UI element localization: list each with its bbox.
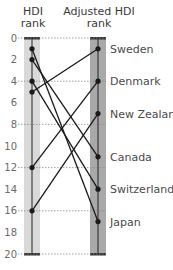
country-label: Japan [109, 216, 141, 229]
country-label: Canada [110, 151, 152, 164]
country-label: New Zealand [110, 108, 173, 121]
country-labels: SwedenDenmarkNew ZealandCanadaSwitzerlan… [109, 43, 173, 229]
y-tick-label: 20 [4, 249, 17, 260]
hdi-rank-point [29, 89, 34, 94]
country-label: Sweden [110, 43, 153, 56]
series-japan [29, 46, 100, 224]
country-label: Denmark [110, 75, 161, 88]
country-label: Switzerland [110, 183, 173, 196]
y-tick-label: 4 [11, 76, 17, 87]
y-tick-label: 2 [11, 54, 17, 65]
y-tick-label: 8 [11, 119, 17, 130]
adjusted-rank-point [95, 79, 100, 84]
adjusted-rank-point [95, 46, 100, 51]
y-tick-label: 0 [11, 33, 17, 44]
y-tick-label: 16 [4, 205, 17, 216]
y-tick-label: 18 [4, 227, 17, 238]
adjusted-top-cap [90, 37, 106, 40]
y-tick-label: 6 [11, 97, 17, 108]
y-tick-label: 10 [4, 141, 17, 152]
adjusted-rank-point [95, 111, 100, 116]
hdi-rank-point [29, 79, 34, 84]
adjusted-rank-point [95, 219, 100, 224]
y-tick-label: 14 [4, 184, 17, 195]
hdi-bottom-cap [24, 253, 40, 256]
y-axis-ticks: 02468101214161820 [4, 33, 17, 260]
hdi-rank-point [29, 165, 34, 170]
slope-line [32, 49, 98, 92]
adjusted-bottom-cap [90, 253, 106, 256]
hdi-rank-point [29, 46, 34, 51]
slope-chart: 02468101214161820 SwedenDenmarkNew Zeala… [0, 0, 173, 270]
series-canada [29, 57, 100, 159]
slope-lines [29, 46, 100, 224]
y-tick-label: 12 [4, 162, 17, 173]
adjusted-rank-point [95, 187, 100, 192]
adjusted-rank-point [95, 154, 100, 159]
hdi-top-cap [24, 37, 40, 40]
series-new-zealand [29, 111, 100, 213]
hdi-rank-point [29, 57, 34, 62]
hdi-rank-point [29, 208, 34, 213]
